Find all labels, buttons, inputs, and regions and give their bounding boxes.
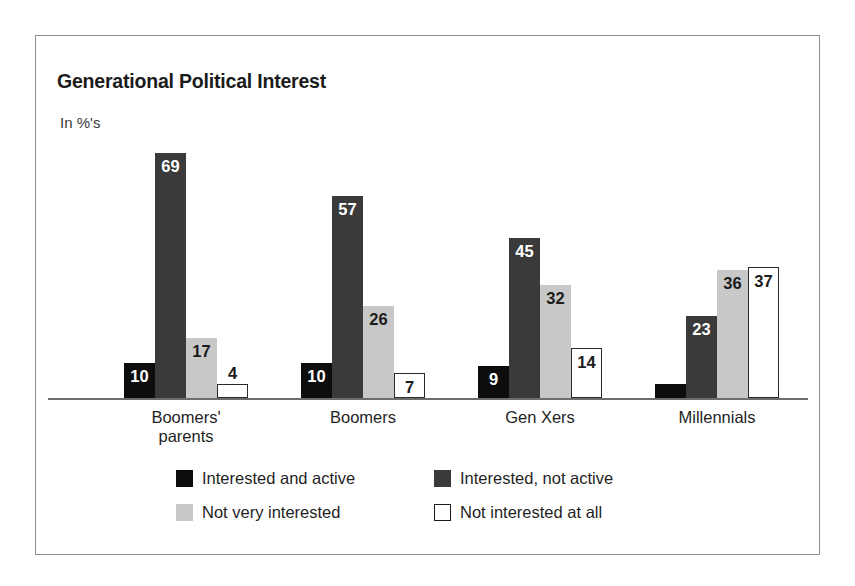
bar[interactable]: 4: [217, 384, 248, 398]
category-label-line: Gen Xers: [470, 408, 610, 427]
bar[interactable]: 9: [478, 366, 509, 398]
bar[interactable]: 36: [717, 270, 748, 398]
category-label: Gen Xers: [470, 408, 610, 427]
category-label-line: Millennials: [647, 408, 787, 427]
legend-row: Not very interestedNot interested at all: [176, 495, 696, 529]
bar-stack-row: 1057267: [301, 132, 425, 398]
white-swatch: [434, 504, 451, 521]
legend-item[interactable]: Interested and active: [176, 469, 434, 488]
light-gray-swatch: [176, 504, 193, 521]
bar-value-label: 4: [655, 364, 686, 381]
bar-value-label: 45: [509, 243, 540, 260]
bar-value-label: 10: [124, 368, 155, 385]
bar[interactable]: 23: [686, 316, 717, 398]
bar-value-label: 69: [155, 158, 186, 175]
bar-stack-row: 4233637: [655, 132, 779, 398]
legend-label: Interested and active: [202, 469, 355, 488]
bar-stack-row: 9453214: [478, 132, 602, 398]
chart-frame: Generational Political Interest In %'s 1…: [35, 35, 820, 555]
bar-value-label: 17: [186, 343, 217, 360]
figure-canvas: Generational Political Interest In %'s 1…: [0, 0, 855, 586]
category-label-line: Boomers: [293, 408, 433, 427]
legend-item[interactable]: Not interested at all: [434, 503, 602, 522]
bar-value-label: 36: [717, 275, 748, 292]
x-axis-line: [48, 398, 808, 400]
bar[interactable]: 37: [748, 267, 779, 398]
bar[interactable]: 10: [124, 363, 155, 398]
bar[interactable]: 7: [394, 373, 425, 398]
bar-value-label: 57: [332, 201, 363, 218]
bar[interactable]: 26: [363, 306, 394, 398]
bar-value-label: 32: [540, 290, 571, 307]
legend-row: Interested and activeInterested, not act…: [176, 461, 696, 495]
bar-value-label: 10: [301, 368, 332, 385]
bar-value-label: 9: [478, 371, 509, 388]
bar-value-label: 23: [686, 321, 717, 338]
bar-value-label: 26: [363, 311, 394, 328]
legend-item[interactable]: Not very interested: [176, 503, 434, 522]
bar-value-label: 4: [218, 365, 247, 382]
category-label-line: Boomers': [116, 408, 256, 427]
chart-legend: Interested and activeInterested, not act…: [176, 461, 696, 529]
bar[interactable]: 69: [155, 153, 186, 398]
bar-value-label: 37: [749, 273, 778, 290]
bar[interactable]: 10: [301, 363, 332, 398]
bar-stack-row: 1069174: [124, 132, 248, 398]
chart-units-label: In %'s: [60, 114, 100, 131]
legend-label: Not interested at all: [460, 503, 602, 522]
plot-area: 1069174105726794532144233637: [48, 132, 808, 400]
legend-label: Interested, not active: [460, 469, 613, 488]
black-swatch: [176, 470, 193, 487]
bar[interactable]: 14: [571, 348, 602, 398]
category-label: Boomers: [293, 408, 433, 427]
bar-value-label: 14: [572, 354, 601, 371]
chart-title: Generational Political Interest: [57, 70, 326, 93]
category-label: Boomers'parents: [116, 408, 256, 447]
category-label: Millennials: [647, 408, 787, 427]
bar[interactable]: 32: [540, 285, 571, 398]
legend-label: Not very interested: [202, 503, 340, 522]
bar[interactable]: 45: [509, 238, 540, 398]
legend-item[interactable]: Interested, not active: [434, 469, 613, 488]
category-label-line: parents: [116, 427, 256, 446]
dark-gray-swatch: [434, 470, 451, 487]
bar[interactable]: 17: [186, 338, 217, 398]
bar-value-label: 7: [395, 379, 424, 396]
bar[interactable]: 4: [655, 384, 686, 398]
bar[interactable]: 57: [332, 196, 363, 398]
